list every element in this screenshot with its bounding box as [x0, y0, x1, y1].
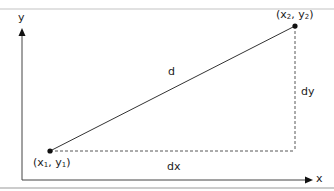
- x-axis-label: x: [316, 173, 323, 184]
- distance-label: d: [168, 66, 175, 77]
- point-2-y-sub: 2: [305, 13, 309, 21]
- distance-diagram: y x (x2, y2) (x1, y1) d dy dx: [0, 0, 334, 191]
- point-1-x-sub: 1: [44, 161, 48, 169]
- point-1-label: (x1, y1): [33, 157, 71, 169]
- y-axis-label: y: [18, 12, 25, 23]
- point-1-dot: [47, 148, 52, 153]
- point-2-label: (x2, y2): [276, 9, 314, 21]
- dx-label: dx: [167, 161, 181, 172]
- distance-line: [50, 26, 295, 151]
- point-1-y-sub: 1: [62, 161, 66, 169]
- point-2-x-sub: 2: [287, 13, 291, 21]
- point-2-dot: [292, 23, 297, 28]
- x-axis-arrowhead-icon: [305, 177, 313, 184]
- y-axis-arrowhead-icon: [19, 28, 26, 36]
- dy-label: dy: [301, 86, 315, 97]
